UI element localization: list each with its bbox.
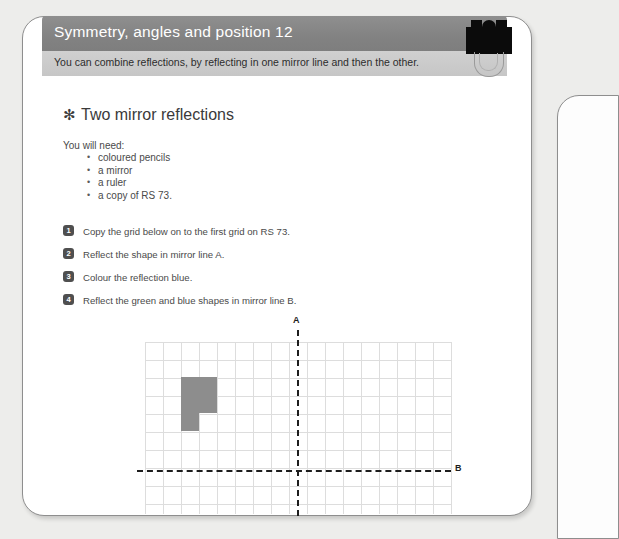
- materials-label: You will need:: [63, 140, 124, 151]
- binder-clip-icon: [466, 18, 512, 54]
- mirror-line-b: [137, 470, 451, 472]
- step-text: Copy the grid below on to the first grid…: [83, 226, 290, 237]
- step-text: Colour the reflection blue.: [83, 272, 192, 283]
- grid-shape: [181, 377, 217, 431]
- grid-shape-block-leg: [181, 413, 199, 431]
- section-heading-label: Two mirror reflections: [81, 106, 234, 123]
- step-text: Reflect the shape in mirror line A.: [83, 249, 224, 260]
- secondary-page-sheet: [557, 95, 619, 539]
- list-item: a mirror: [98, 165, 172, 178]
- step-text: Reflect the green and blue shapes in mir…: [83, 295, 296, 306]
- step-number-badge: 3: [63, 271, 74, 282]
- step-number-badge: 1: [63, 225, 74, 236]
- instruction-steps: 1 Copy the grid below on to the first gr…: [63, 225, 463, 317]
- list-item: a copy of RS 73.: [98, 190, 172, 203]
- symmetry-grid-diagram: A B: [145, 342, 451, 514]
- instruction-step: 1 Copy the grid below on to the first gr…: [63, 225, 463, 248]
- list-item: a ruler: [98, 177, 172, 190]
- step-number-badge: 2: [63, 248, 74, 259]
- page-subtitle: You can combine reflections, by reflecti…: [54, 56, 419, 68]
- materials-list: coloured pencils a mirror a ruler a copy…: [80, 152, 172, 202]
- grid-shape-block-top: [181, 377, 217, 413]
- section-heading: ✻Two mirror reflections: [63, 106, 234, 124]
- mirror-line-b-label: B: [455, 463, 462, 473]
- instruction-step: 2 Reflect the shape in mirror line A.: [63, 248, 463, 271]
- instruction-step: 3 Colour the reflection blue.: [63, 271, 463, 294]
- page-title: Symmetry, angles and position 12: [54, 23, 293, 41]
- binder-clip-body: [466, 27, 512, 54]
- instruction-step: 4 Reflect the green and blue shapes in m…: [63, 294, 463, 317]
- step-number-badge: 4: [63, 294, 74, 305]
- worksheet-title-bar: Symmetry, angles and position 12: [42, 16, 507, 51]
- binder-clip-wire-inner-icon: [479, 53, 498, 71]
- list-item: coloured pencils: [98, 152, 172, 165]
- worksheet-subtitle-bar: You can combine reflections, by reflecti…: [42, 51, 507, 76]
- asterisk-icon: ✻: [63, 106, 76, 123]
- mirror-line-a: [297, 330, 299, 516]
- mirror-line-a-label: A: [293, 315, 300, 325]
